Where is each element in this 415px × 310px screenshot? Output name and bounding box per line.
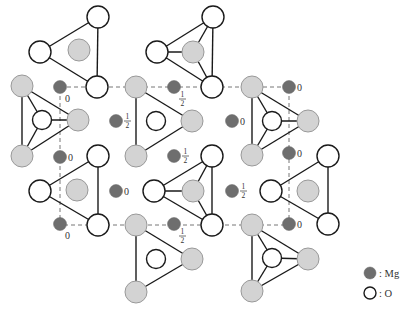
gray-atom xyxy=(182,41,204,63)
o-atom xyxy=(143,180,165,202)
mg-atom xyxy=(54,81,67,94)
mg-atom xyxy=(110,115,123,128)
height-label-half: 12 xyxy=(179,227,186,245)
gray-atom xyxy=(241,76,263,98)
gray-atom xyxy=(181,110,203,132)
o-atom xyxy=(201,145,223,167)
svg-text:1: 1 xyxy=(126,112,130,121)
mgo-structure-diagram: 012012001200120120 : Mg : O xyxy=(0,0,415,310)
svg-text:2: 2 xyxy=(181,99,185,108)
mg-atom xyxy=(110,185,123,198)
o-atom xyxy=(29,180,51,202)
height-label-zero: 0 xyxy=(65,93,70,104)
o-atom xyxy=(263,112,282,131)
gray-atom xyxy=(241,214,263,236)
gray-atom xyxy=(182,180,204,202)
svg-text:1: 1 xyxy=(242,182,246,191)
o-atom xyxy=(146,41,168,63)
svg-text:2: 2 xyxy=(181,236,185,245)
mg-atom xyxy=(283,218,296,231)
svg-text:2: 2 xyxy=(184,156,188,165)
o-legend-icon xyxy=(364,287,376,299)
mg-atom xyxy=(168,81,181,94)
mg-atom xyxy=(54,218,67,231)
o-atom xyxy=(87,145,109,167)
height-label-zero: 0 xyxy=(65,230,70,241)
mg-atom xyxy=(226,115,239,128)
gray-atom xyxy=(297,180,319,202)
gray-atom xyxy=(67,109,89,131)
o-atom xyxy=(87,214,109,236)
o-atom xyxy=(202,6,224,28)
gray-atom xyxy=(181,248,203,270)
gray-atom xyxy=(66,179,88,201)
gray-atom xyxy=(297,248,319,270)
mg-atom xyxy=(283,81,296,94)
o-atom xyxy=(29,41,51,63)
height-label-half: 12 xyxy=(182,147,189,165)
height-label-zero: 0 xyxy=(68,152,73,163)
gray-atom xyxy=(11,145,33,167)
gray-atom xyxy=(241,144,263,166)
o-atom xyxy=(87,6,109,28)
mg-atom xyxy=(168,218,181,231)
mg-atom xyxy=(226,185,239,198)
svg-text:2: 2 xyxy=(242,191,246,200)
gray-atom xyxy=(68,39,90,61)
svg-text:2: 2 xyxy=(126,121,130,130)
o-atom xyxy=(317,213,339,235)
gray-atom xyxy=(125,145,147,167)
svg-text:1: 1 xyxy=(181,90,185,99)
o-atom xyxy=(263,249,282,268)
height-label-zero: 0 xyxy=(240,116,245,127)
mg-legend-label: : Mg xyxy=(379,268,400,279)
height-label-zero: 0 xyxy=(297,148,302,159)
mg-atom xyxy=(168,150,181,163)
height-label-zero: 0 xyxy=(124,186,129,197)
o-atom xyxy=(147,250,166,269)
mg-atom xyxy=(283,147,296,160)
gray-atom xyxy=(125,214,147,236)
gray-atom xyxy=(125,76,147,98)
gray-atom xyxy=(241,280,263,302)
o-atom xyxy=(260,180,282,202)
gray-atom xyxy=(125,281,147,303)
o-legend-label: : O xyxy=(379,288,393,299)
legend: : Mg : O xyxy=(364,267,400,299)
o-atom xyxy=(33,111,52,130)
mg-atom xyxy=(54,151,67,164)
gray-atom xyxy=(11,75,33,97)
height-label-zero: 0 xyxy=(297,219,302,230)
o-atom xyxy=(86,76,108,98)
o-atom xyxy=(201,76,223,98)
height-label-half: 12 xyxy=(179,90,186,108)
mg-legend-icon xyxy=(364,267,376,279)
height-label-half: 12 xyxy=(240,182,247,200)
svg-text:1: 1 xyxy=(181,227,185,236)
height-label-zero: 0 xyxy=(297,82,302,93)
height-label-half: 12 xyxy=(124,112,131,130)
o-atom xyxy=(317,145,339,167)
gray-atom xyxy=(297,110,319,132)
svg-text:1: 1 xyxy=(184,147,188,156)
o-atom xyxy=(201,214,223,236)
o-atom xyxy=(147,112,166,131)
